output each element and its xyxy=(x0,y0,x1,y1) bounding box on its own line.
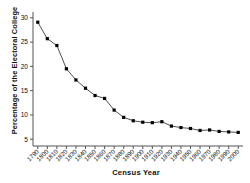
data-point-marker xyxy=(227,130,230,133)
data-series-line xyxy=(38,22,238,132)
data-point-marker xyxy=(93,94,96,97)
data-point-marker xyxy=(46,37,49,40)
line-chart-plot: 51015202530 1790180018101820183018401850… xyxy=(0,0,250,183)
x-axis-title: Census Year xyxy=(30,168,242,177)
y-tick-label: 15 xyxy=(21,87,29,94)
y-tick-label: 20 xyxy=(21,63,29,70)
data-point-marker xyxy=(198,129,201,132)
y-tick-label: 30 xyxy=(21,14,29,21)
data-point-marker xyxy=(103,97,106,100)
data-point-marker xyxy=(141,121,144,124)
data-point-marker xyxy=(151,121,154,124)
data-point-marker xyxy=(84,87,87,90)
data-point-marker xyxy=(122,116,125,119)
data-point-marker xyxy=(36,21,39,24)
y-tick-label: 10 xyxy=(21,111,29,118)
chart-figure: Percentage of the Electoral College 5101… xyxy=(0,0,250,183)
data-point-marker xyxy=(208,128,211,131)
y-axis-ticks: 51015202530 xyxy=(21,14,33,142)
data-point-marker xyxy=(132,119,135,122)
axes xyxy=(33,12,243,146)
data-point-marker xyxy=(74,78,77,81)
x-tick-label: 2000 xyxy=(226,147,241,162)
y-tick-label: 5 xyxy=(24,136,28,143)
data-point-marker xyxy=(113,108,116,111)
data-point-marker xyxy=(55,44,58,47)
data-point-marker xyxy=(179,126,182,129)
x-axis-ticks: 1790180018101820183018401850186018701880… xyxy=(25,146,241,162)
data-point-marker xyxy=(237,131,240,134)
data-point-marker xyxy=(170,124,173,127)
data-point-marker xyxy=(65,67,68,70)
data-point-marker xyxy=(189,127,192,130)
data-point-marker xyxy=(160,120,163,123)
data-point-markers xyxy=(36,21,240,134)
y-tick-label: 25 xyxy=(21,38,29,45)
data-point-marker xyxy=(218,130,221,133)
